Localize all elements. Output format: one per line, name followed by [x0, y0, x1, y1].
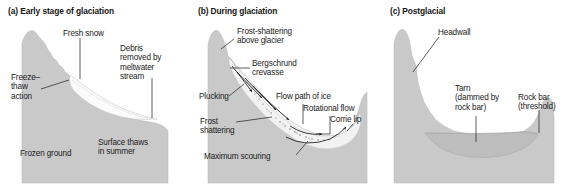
rotational-flow-leader [316, 116, 330, 134]
label-flow-path-of-ice: Flow path of ice [276, 92, 331, 101]
panel-during-glaciation: (b) During glaciation [190, 0, 382, 189]
label-rock-bar: Rock bar (threshold) [518, 93, 556, 112]
corrie-formation-figure: (a) Early stage of glaciation Fresh snow… [0, 0, 571, 189]
label-plucking: Plucking [199, 92, 229, 101]
label-frost-shattering-above-glacier: Frost-shattering above glacier [237, 27, 292, 46]
label-frozen-ground: Frozen ground [20, 149, 71, 158]
label-bergschrund-crevasse: Bergschrund crevasse [252, 59, 297, 78]
label-frost-shattering: Frost shattering [200, 117, 234, 136]
label-tarn: Tarn (dammed by rock bar) [455, 84, 499, 112]
panel-early-stage-of-glaciation: (a) Early stage of glaciation Fresh snow… [0, 0, 190, 189]
label-debris-removed: Debris removed by meltwater stream [120, 44, 161, 82]
label-rotational-flow: Rotational flow [303, 104, 354, 113]
label-headwall: Headwall [438, 28, 470, 37]
label-freeze-thaw-action: Freeze– thaw action [11, 73, 40, 101]
label-corrie-lip: Corrie lip [330, 115, 361, 124]
headwall-leader [413, 37, 439, 72]
label-fresh-snow: Fresh snow [63, 29, 104, 38]
label-surface-thaws: Surface thaws in summer [98, 138, 148, 157]
panel-postglacial: (c) Postglacial Headwall Tarn (dammed by… [382, 0, 571, 189]
label-maximum-scouring: Maximum scouring [204, 152, 270, 161]
